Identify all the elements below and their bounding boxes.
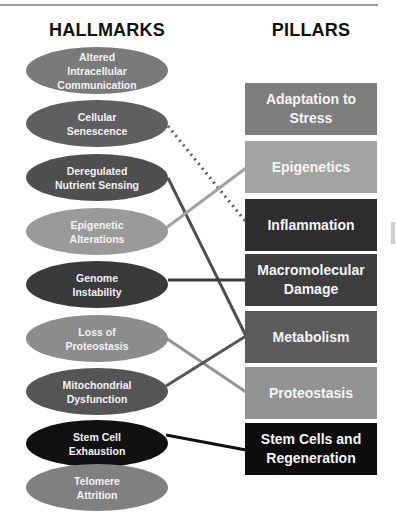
pillar-proteostasis: Proteostasis — [245, 367, 377, 419]
edge-marker — [391, 222, 395, 244]
pillar-epigenetics: Epigenetics — [245, 141, 377, 193]
pillar-metabolism: Metabolism — [245, 311, 377, 363]
hallmark-deregulated-nutrient-sensing: Deregulated Nutrient Sensing — [26, 154, 168, 201]
pillar-inflammation: Inflammation — [245, 199, 377, 251]
hallmark-loss-of-proteostasis: Loss of Proteostasis — [26, 315, 168, 362]
hallmark-genome-instability: Genome Instability — [26, 261, 168, 308]
link-mito-metabolism — [166, 336, 246, 386]
link-nutrient-metabolism — [168, 178, 246, 336]
hallmark-telomere-attrition: Telomere Attrition — [26, 464, 168, 511]
pillar-macromolecular-damage: Macromolecular Damage — [245, 254, 377, 306]
hallmark-mitochondrial-dysfunction: Mitochondrial Dysfunction — [26, 368, 168, 415]
hallmark-epigenetic-alterations: Epigenetic Alterations — [26, 208, 168, 255]
hallmark-stem-cell-exhaustion: Stem Cell Exhaustion — [26, 420, 168, 467]
link-stemcell-regeneration — [166, 435, 246, 450]
pillar-adaptation-to-stress: Adaptation to Stress — [245, 83, 377, 135]
link-senescence-inflammation — [168, 126, 246, 222]
link-proteostasis-loss — [166, 338, 246, 392]
hallmark-cellular-senescence: Cellular Senescence — [26, 100, 168, 147]
pillar-stem-cells-and-regeneration: Stem Cells and Regeneration — [245, 423, 377, 475]
hallmark-altered-intracellular-communication: Altered Intracellular Communication — [26, 47, 168, 94]
